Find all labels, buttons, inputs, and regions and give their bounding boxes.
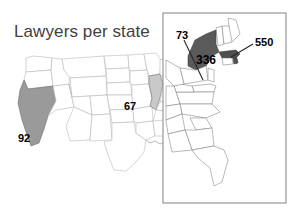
northeast-inset: [0, 0, 292, 215]
state-value-label-new-york: 336: [196, 54, 216, 66]
lawyers-per-state-figure: Lawyers per state: [0, 0, 292, 215]
state-value-label-pennsylvania: 73: [176, 30, 188, 41]
state-value-label-massachusetts: 550: [255, 37, 273, 48]
